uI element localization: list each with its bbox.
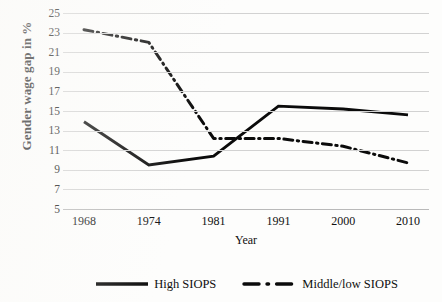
x-tick-label-1968: 1968 (72, 214, 96, 229)
legend-label-middle-low-siops: Middle/low SIOPS (302, 277, 398, 292)
y-tick-label-7: 7 (26, 184, 60, 195)
y-tick-label-15: 15 (26, 106, 60, 117)
y-tick-label-13: 13 (26, 125, 60, 136)
dash-dot-line-swatch-icon (242, 278, 298, 290)
gridline-25 (63, 13, 429, 14)
x-axis-line (63, 209, 429, 210)
solid-line-swatch-icon (94, 278, 150, 290)
gridline-7 (63, 189, 429, 190)
y-tick-label-23: 23 (26, 27, 60, 38)
plot-area (63, 13, 429, 209)
series-line-middle-low-siops (84, 30, 408, 163)
gridline-21 (63, 52, 429, 53)
x-tick-label-2000: 2000 (331, 214, 355, 229)
gridline-9 (63, 170, 429, 171)
x-axis-tick-labels: 196819741981199120002010 (63, 212, 429, 234)
y-tick-label-5: 5 (26, 204, 60, 215)
x-tick-label-1981: 1981 (202, 214, 226, 229)
y-tick-label-21: 21 (26, 47, 60, 58)
y-tick-label-17: 17 (26, 86, 60, 97)
y-axis-tick-labels: 2523211917151311975 (26, 13, 60, 209)
legend-item-middle-low-siops: Middle/low SIOPS (242, 277, 398, 292)
y-tick-label-19: 19 (26, 66, 60, 77)
gridline-17 (63, 91, 429, 92)
x-tick-label-1991: 1991 (266, 214, 290, 229)
gridline-23 (63, 33, 429, 34)
x-tick-label-2010: 2010 (396, 214, 420, 229)
gridline-15 (63, 111, 429, 112)
y-tick-label-25: 25 (26, 8, 60, 19)
x-tick-label-1974: 1974 (137, 214, 161, 229)
legend-item-high-siops: High SIOPS (94, 277, 216, 292)
x-axis-title: Year (63, 233, 429, 248)
chart-figure: Gender wage gap in % 2523211917151311975… (0, 0, 442, 302)
gridline-11 (63, 150, 429, 151)
gridline-13 (63, 131, 429, 132)
y-tick-label-11: 11 (26, 145, 60, 156)
chart-legend: High SIOPS Middle/low SIOPS (63, 272, 429, 296)
y-tick-label-9: 9 (26, 164, 60, 175)
gridline-19 (63, 72, 429, 73)
legend-label-high-siops: High SIOPS (154, 277, 216, 292)
series-line-high-siops (84, 106, 408, 165)
